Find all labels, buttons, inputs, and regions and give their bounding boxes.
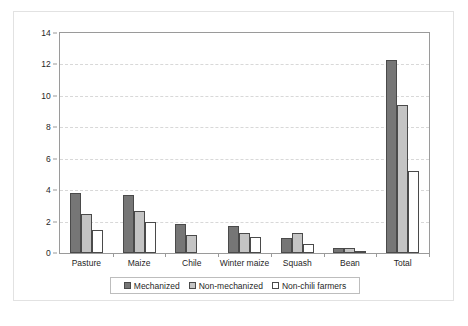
- legend-item: Non-chili farmers: [272, 281, 346, 291]
- x-tick-label: Chile: [182, 258, 201, 268]
- x-axis-labels: PastureMaizeChileWinter maizeSquashBeanT…: [60, 258, 429, 272]
- y-tick-label: 6: [46, 154, 51, 164]
- bar-total-non-chili-farmers: [408, 171, 419, 253]
- y-tick-label: 12: [41, 59, 51, 69]
- x-tick-label: Total: [394, 258, 412, 268]
- bar-squash-non-chili-farmers: [303, 244, 314, 253]
- y-tick-mark: [53, 190, 57, 191]
- bar-squash-non-mechanized: [292, 233, 303, 253]
- y-tick-label: 14: [41, 28, 51, 38]
- legend-swatch-icon: [272, 282, 279, 289]
- legend-label: Mechanized: [134, 281, 180, 291]
- x-tick-mark: [165, 253, 166, 257]
- legend-swatch-icon: [124, 282, 131, 289]
- x-tick-mark: [429, 253, 430, 257]
- y-tick-mark: [53, 95, 57, 96]
- bar-group: [113, 33, 166, 253]
- y-axis: 02468101214: [14, 32, 57, 254]
- bar-group: [165, 33, 218, 253]
- bar-pasture-non-chili-farmers: [92, 230, 103, 253]
- y-tick-label: 4: [46, 185, 51, 195]
- y-tick-mark: [53, 221, 57, 222]
- bar-maize-mechanized: [123, 195, 134, 253]
- bar-group: [218, 33, 271, 253]
- x-tick-label: Winter maize: [220, 258, 270, 268]
- legend-item: Mechanized: [124, 281, 180, 291]
- x-tick-mark: [218, 253, 219, 257]
- bar-chile-mechanized: [175, 224, 186, 253]
- bar-chile-non-mechanized: [186, 235, 197, 253]
- figure-frame: Hectares in crop 02468101214 PastureMaiz…: [13, 11, 454, 301]
- bar-winter-maize-non-chili-farmers: [250, 237, 261, 254]
- bar-pasture-mechanized: [70, 193, 81, 253]
- x-tick-mark: [271, 253, 272, 257]
- x-tick-mark: [324, 253, 325, 257]
- chart-legend: MechanizedNon-mechanizedNon-chili farmer…: [110, 277, 360, 294]
- legend-swatch-icon: [189, 282, 196, 289]
- legend-item: Non-mechanized: [189, 281, 263, 291]
- y-tick-label: 10: [41, 91, 51, 101]
- bar-maize-non-chili-farmers: [145, 222, 156, 253]
- y-tick-label: 2: [46, 217, 51, 227]
- y-tick-label: 0: [46, 248, 51, 258]
- bar-group: [271, 33, 324, 253]
- x-tick-label: Pasture: [72, 258, 101, 268]
- x-tick-mark: [113, 253, 114, 257]
- y-tick-mark: [53, 127, 57, 128]
- x-tick-label: Bean: [340, 258, 360, 268]
- bar-group: [60, 33, 113, 253]
- bar-squash-mechanized: [281, 238, 292, 253]
- legend-label: Non-chili farmers: [282, 281, 346, 291]
- y-tick-mark: [53, 33, 57, 34]
- y-tick-mark: [53, 64, 57, 65]
- legend-label: Non-mechanized: [199, 281, 263, 291]
- bar-total-mechanized: [386, 60, 397, 253]
- y-tick-mark: [53, 253, 57, 254]
- bar-winter-maize-mechanized: [228, 226, 239, 254]
- bar-group: [376, 33, 429, 253]
- x-tick-mark: [376, 253, 377, 257]
- y-tick-label: 8: [46, 122, 51, 132]
- bar-pasture-non-mechanized: [81, 214, 92, 253]
- x-tick-label: Squash: [283, 258, 312, 268]
- bar-winter-maize-non-mechanized: [239, 233, 250, 253]
- bar-maize-non-mechanized: [134, 211, 145, 253]
- bar-group: [324, 33, 377, 253]
- y-tick-mark: [53, 158, 57, 159]
- x-tick-label: Maize: [128, 258, 151, 268]
- bar-total-non-mechanized: [397, 105, 408, 253]
- bars-layer: [60, 33, 429, 253]
